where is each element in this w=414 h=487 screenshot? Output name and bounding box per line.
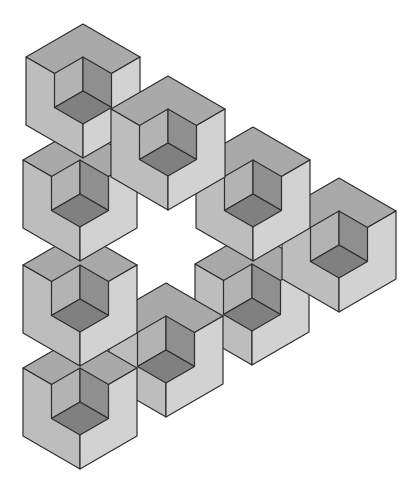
cube-figure-canvas	[0, 0, 414, 487]
impossible-cube-triangle	[0, 0, 414, 487]
